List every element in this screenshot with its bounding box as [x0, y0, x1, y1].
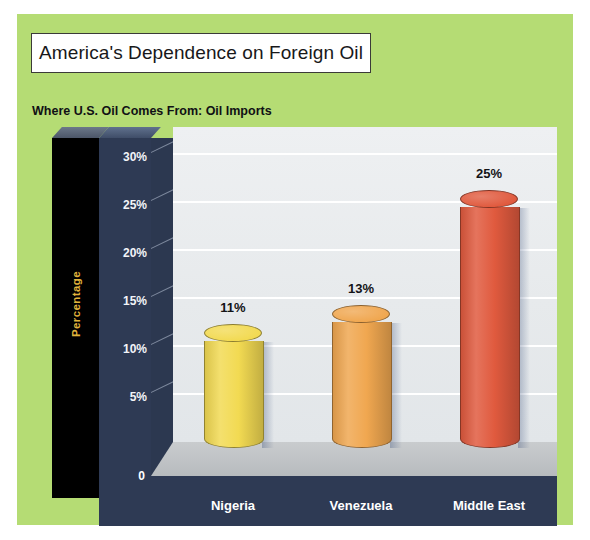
- y-axis-tick-label: 20%: [101, 246, 147, 260]
- gridline-depth-connector: [151, 188, 173, 203]
- x-axis-category-label: Nigeria: [211, 498, 255, 513]
- y-axis-tick-label: 0: [138, 469, 145, 483]
- y-axis-wall: 5%10%15%20%25%30%: [99, 138, 151, 498]
- bar-chart: Percentage 5%10%15%20%25%30% NigeriaVene…: [33, 127, 557, 499]
- axis-depth-face: [151, 138, 173, 498]
- bar-top-ellipse: [332, 305, 390, 323]
- bar-body: [332, 322, 392, 448]
- bar-venezuela[interactable]: 13%: [332, 305, 390, 448]
- chart-subtitle: Where U.S. Oil Comes From: Oil Imports: [32, 104, 272, 118]
- y-axis-tick-label: 25%: [101, 198, 147, 212]
- bar-nigeria[interactable]: 11%: [204, 324, 262, 448]
- y-axis-tick-label: 30%: [101, 150, 147, 164]
- gridline: [173, 153, 557, 155]
- y-axis-title: Percentage: [70, 256, 82, 352]
- bar-top-ellipse: [204, 324, 262, 342]
- x-axis-band: NigeriaVenezuelaMiddle East: [99, 476, 557, 526]
- gridline-depth-connector: [151, 140, 173, 155]
- y-axis-wall-top-bevel: [99, 127, 161, 138]
- y-axis-tick-label: 15%: [101, 294, 147, 308]
- bar-middle-east[interactable]: 25%: [460, 190, 518, 448]
- percentage-pillar: Percentage: [52, 138, 99, 498]
- gridline-depth-connector: [151, 380, 173, 395]
- y-axis-tick-label: 10%: [101, 342, 147, 356]
- chart-title-box: America's Dependence on Foreign Oil: [31, 33, 371, 73]
- bar-top-ellipse: [460, 190, 518, 208]
- x-axis-category-label: Venezuela: [330, 498, 393, 513]
- page-title: America's Dependence on Foreign Oil: [39, 42, 363, 64]
- bar-body: [460, 207, 520, 448]
- gridline-depth-connector: [151, 236, 173, 251]
- gridline-depth-connector: [151, 284, 173, 299]
- bar-value-label: 11%: [220, 300, 245, 315]
- gridline-depth-connector: [151, 332, 173, 347]
- bar-body: [204, 341, 264, 448]
- poster-page: America's Dependence on Foreign Oil Wher…: [0, 0, 590, 540]
- bar-value-label: 13%: [348, 281, 374, 296]
- y-axis-tick-label: 5%: [101, 390, 147, 404]
- x-axis-category-label: Middle East: [453, 498, 525, 513]
- bar-value-label: 25%: [476, 166, 502, 181]
